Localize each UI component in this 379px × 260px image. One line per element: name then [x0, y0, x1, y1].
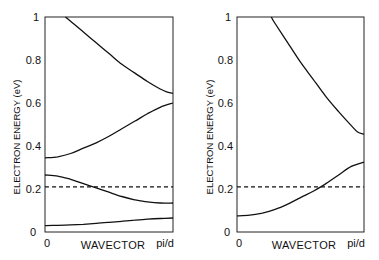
left-band-2-line [45, 103, 173, 158]
right-y-axis-label: ELECTRON ENERGY (eV) [204, 80, 215, 195]
left-ytick-0.8: 0.8 [26, 54, 41, 66]
left-band-3-line [45, 175, 173, 203]
left-xtick-pi-d: pi/d [156, 237, 174, 249]
right-ytick-0.8: 0.8 [218, 54, 233, 66]
right-panel: 0 0.2 0.4 0.6 0.8 1 ELECTRON ENERGY (eV)… [204, 11, 365, 251]
right-ytick-0: 0 [224, 226, 230, 238]
left-band-4-line [45, 218, 173, 226]
left-xtick-0: 0 [44, 237, 50, 249]
right-xtick-pi-d: pi/d [347, 237, 365, 249]
right-x-axis-label: WAVECTOR [272, 239, 337, 251]
right-ytick-0.6: 0.6 [218, 97, 233, 109]
right-plot-frame [237, 17, 364, 232]
right-xtick-0: 0 [236, 237, 242, 249]
left-y-ticks: 0 0.2 0.4 0.6 0.8 1 [26, 11, 41, 238]
left-x-axis-label: WAVECTOR [81, 239, 146, 251]
left-plot-frame [45, 17, 173, 232]
left-ytick-0: 0 [30, 226, 36, 238]
left-ytick-1: 1 [33, 11, 39, 23]
right-y-ticks: 0 0.2 0.4 0.6 0.8 1 [218, 11, 233, 238]
left-ytick-0.4: 0.4 [26, 140, 41, 152]
right-band-2-line [237, 162, 364, 216]
left-ytick-0.6: 0.6 [26, 97, 41, 109]
left-panel: 0 0.2 0.4 0.6 0.8 1 ELECTRON ENERGY (eV)… [11, 11, 174, 251]
right-band-1-line [271, 17, 364, 134]
band-structure-figure: 0 0.2 0.4 0.6 0.8 1 ELECTRON ENERGY (eV)… [0, 0, 379, 260]
right-ytick-0.4: 0.4 [218, 140, 233, 152]
left-band-1-line [66, 17, 174, 93]
left-curves [45, 17, 173, 226]
right-ytick-0.2: 0.2 [218, 183, 233, 195]
left-y-axis-label: ELECTRON ENERGY (eV) [11, 80, 22, 195]
right-ytick-1: 1 [225, 11, 231, 23]
right-curves [237, 17, 364, 216]
left-ytick-0.2: 0.2 [26, 183, 41, 195]
